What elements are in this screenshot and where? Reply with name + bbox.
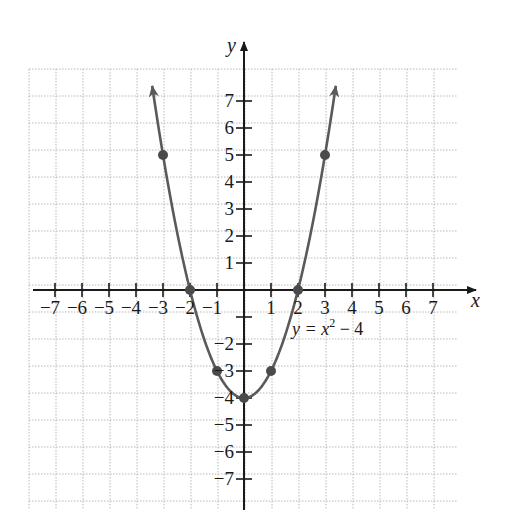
x-tick-label: 3: [320, 297, 330, 318]
y-tick-label: 6: [225, 117, 235, 138]
x-tick-label: 5: [374, 297, 384, 318]
data-point: [239, 393, 249, 403]
y-tick-label: 5: [225, 144, 235, 165]
x-tick-label: 7: [428, 297, 438, 318]
data-point: [266, 366, 276, 376]
x-tick-label: −2: [175, 297, 195, 318]
y-tick-label: −4: [214, 387, 235, 408]
data-point: [185, 285, 195, 295]
x-tick-label: −6: [67, 297, 87, 318]
x-tick-label: 6: [401, 297, 411, 318]
equation-suffix: − 4: [335, 319, 363, 339]
y-tick-label: −6: [214, 441, 234, 462]
x-tick-label: 2: [293, 297, 303, 318]
y-tick-label: −3: [214, 360, 234, 381]
x-axis-label: x: [470, 289, 480, 311]
axes: [33, 42, 476, 510]
y-tick-label: 3: [225, 198, 235, 219]
x-tick-label: −4: [121, 297, 142, 318]
x-tick-label: 4: [347, 297, 357, 318]
x-tick-label: −3: [148, 297, 168, 318]
data-point: [320, 150, 330, 160]
x-tick-label: −1: [202, 297, 222, 318]
x-tick-label: −5: [94, 297, 114, 318]
y-tick-label: 4: [225, 171, 235, 192]
y-tick-label: 2: [225, 225, 235, 246]
y-tick-label: −7: [214, 468, 234, 489]
y-tick-label: −2: [214, 333, 234, 354]
data-point: [158, 150, 168, 160]
y-tick-label: 1: [225, 252, 235, 273]
x-tick-label: 1: [266, 297, 276, 318]
parabola-chart: −7−6−5−4−3−2−11234567−7−6−5−4−3−21234567…: [0, 0, 512, 521]
x-tick-label: −7: [40, 297, 60, 318]
y-tick-label: 7: [225, 90, 235, 111]
equation-prefix: y = x: [290, 319, 329, 339]
data-point: [293, 285, 303, 295]
equation-label: y = x2 − 4: [290, 316, 363, 339]
y-axis-label: y: [225, 34, 236, 57]
parabola-right-branch: [244, 86, 336, 398]
y-tick-label: −5: [214, 414, 234, 435]
